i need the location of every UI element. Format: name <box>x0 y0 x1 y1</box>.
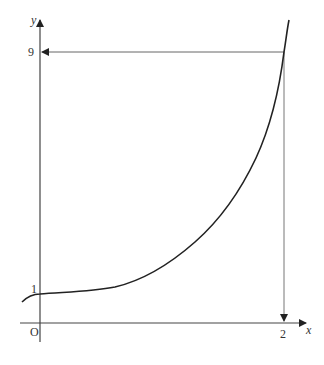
tick-label-y1: 1 <box>31 282 37 296</box>
function-curve <box>22 20 289 302</box>
x-axis-label: x <box>305 323 312 337</box>
tick-label-x2: 2 <box>280 327 286 341</box>
y-axis-label: y <box>30 13 37 27</box>
tick-label-y9: 9 <box>28 45 34 59</box>
origin-label: O <box>30 325 39 339</box>
chart-canvas: y 9 1 O 2 x <box>0 0 324 365</box>
